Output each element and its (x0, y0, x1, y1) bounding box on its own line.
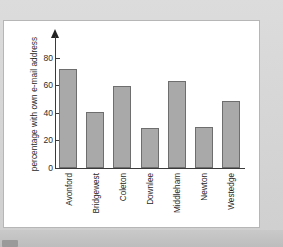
bar[interactable] (168, 81, 186, 168)
x-axis-label-slot: Avonford (55, 171, 82, 227)
bar[interactable] (222, 101, 240, 168)
page-bottom-strip (0, 230, 283, 247)
bar[interactable] (195, 127, 213, 168)
x-axis-label-slot: Downlee (137, 171, 164, 227)
x-axis-label-slot: Newton (191, 171, 218, 227)
bars-layer (55, 21, 245, 169)
y-axis-tick-label: 60 (44, 80, 53, 91)
x-axis-label-slot: Coleton (109, 171, 136, 227)
bar[interactable] (86, 112, 104, 168)
x-axis-category-label: Avonford (64, 173, 73, 206)
y-axis-tick-label: 40 (44, 108, 53, 119)
bar[interactable] (141, 128, 159, 168)
chart-figure-card: percentage with own e-mail address 02040… (3, 20, 260, 228)
y-axis-tick-label: 20 (44, 135, 53, 146)
x-axis-category-label: Middleham (173, 173, 182, 213)
x-axis-category-label: Westedge (227, 173, 236, 210)
y-axis-tick-label: 80 (44, 53, 53, 64)
bar-chart: percentage with own e-mail address 02040… (4, 21, 259, 227)
page-corner-tab (2, 240, 18, 247)
y-axis-tick-label: 0 (48, 163, 53, 174)
x-axis-category-label: Newton (200, 173, 209, 201)
bar[interactable] (113, 86, 131, 169)
x-axis-category-label: Downlee (146, 173, 155, 205)
bar[interactable] (59, 69, 77, 168)
x-axis-label-slot: Westedge (218, 171, 245, 227)
x-axis-category-label: Coleton (118, 173, 127, 201)
x-axis-label-slot: Bridgewest (82, 171, 109, 227)
x-axis-label-slot: Middleham (164, 171, 191, 227)
x-axis-category-label: Bridgewest (91, 173, 100, 214)
x-axis-category-labels: AvonfordBridgewestColetonDownleeMiddleha… (55, 171, 245, 229)
